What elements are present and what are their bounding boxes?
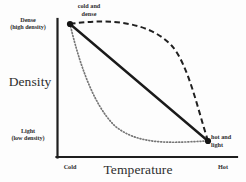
annotation-cold-and-dense-line2: dense bbox=[62, 10, 116, 18]
annotation-hot-and-light: hot and light bbox=[211, 133, 245, 149]
density-temperature-figure: Dense (high density) Density Light (low … bbox=[0, 0, 246, 182]
curve-linear-solid bbox=[70, 24, 208, 141]
annotation-hot-and-light-line1: hot and bbox=[211, 133, 231, 140]
y-axis-low-label-line2: (low density) bbox=[1, 135, 55, 142]
x-axis-low-label: Cold bbox=[56, 164, 84, 171]
annotation-hot-and-light-line2: light bbox=[211, 141, 245, 149]
annotation-cold-and-dense-line1: cold and bbox=[78, 2, 101, 9]
annotation-cold-and-dense: cold and dense bbox=[62, 2, 116, 18]
x-axis-title: Temperature bbox=[92, 162, 184, 177]
y-axis-high-label-line2: (high density) bbox=[1, 24, 55, 31]
y-axis-low-label: Light (low density) bbox=[1, 128, 55, 142]
y-axis-high-label: Dense (high density) bbox=[1, 17, 55, 31]
y-axis-title: Density bbox=[4, 74, 56, 89]
data-point-cold-dense bbox=[67, 21, 73, 27]
x-axis-high-label: Hot bbox=[212, 164, 234, 171]
y-axis-high-label-line1: Dense bbox=[20, 16, 36, 23]
y-axis-low-label-line1: Light bbox=[21, 127, 35, 134]
